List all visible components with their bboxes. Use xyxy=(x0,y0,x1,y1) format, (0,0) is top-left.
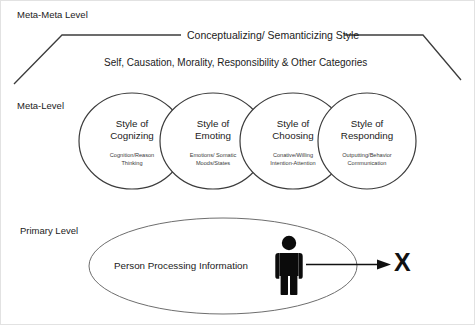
ellipse-sub-line2: Thinking xyxy=(87,160,177,168)
ellipse-title-line2: Emoting xyxy=(173,130,253,142)
ellipse-title-cognizing: Style of Cognizing xyxy=(92,118,172,142)
diagram-canvas: Meta-Meta Level Meta-Level Primary Level… xyxy=(0,0,475,325)
ellipse-title-line1: Style of xyxy=(253,118,333,130)
ellipse-sub-line1: Cognition/Reason xyxy=(87,152,177,160)
level-label-meta: Meta-Level xyxy=(17,101,64,112)
ellipse-title-responding: Style of Responding xyxy=(327,118,407,142)
ellipse-title-line1: Style of xyxy=(92,118,172,130)
ellipse-title-line1: Style of xyxy=(173,118,253,130)
target-x-label: X xyxy=(394,250,411,275)
meta-meta-band-subtitle: Self, Causation, Morality, Responsibilit… xyxy=(104,57,367,69)
ellipse-subtitle-cognizing: Cognition/Reason Thinking xyxy=(87,152,177,167)
ellipse-title-choosing: Style of Choosing xyxy=(253,118,333,142)
ellipse-subtitle-responding: Outputting/Behavior Communication xyxy=(322,152,412,167)
ellipse-sub-line1: Emotions/ Somatic xyxy=(168,152,258,160)
ellipse-sub-line2: Communication xyxy=(322,160,412,168)
ellipse-sub-line1: Outputting/Behavior xyxy=(322,152,412,160)
level-label-primary: Primary Level xyxy=(20,226,78,237)
level-label-meta-meta: Meta-Meta Level xyxy=(17,10,88,21)
ellipse-subtitle-emoting: Emotions/ Somatic Moods/States xyxy=(168,152,258,167)
ellipse-title-emoting: Style of Emoting xyxy=(173,118,253,142)
primary-level-caption: Person Processing Information xyxy=(114,260,248,271)
ellipse-sub-line2: Moods/States xyxy=(168,160,258,168)
ellipse-title-line2: Choosing xyxy=(253,130,333,142)
ellipse-title-line2: Cognizing xyxy=(92,130,172,142)
ellipse-title-line2: Responding xyxy=(327,130,407,142)
ellipse-title-line1: Style of xyxy=(327,118,407,130)
meta-meta-band-title: Conceptualizing/ Semanticizing Style xyxy=(187,29,359,41)
